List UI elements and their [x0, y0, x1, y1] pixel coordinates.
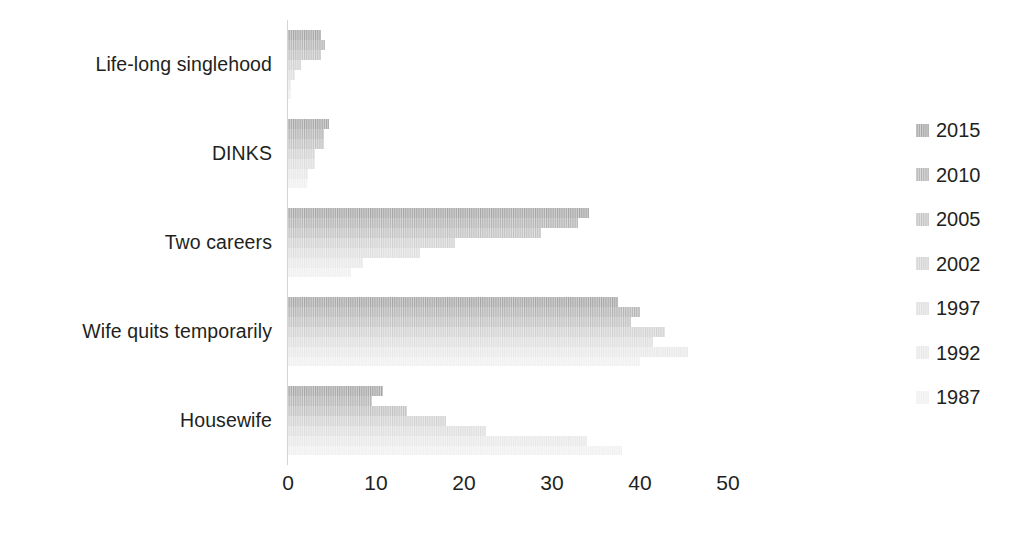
legend-item[interactable]: 1997	[916, 286, 1020, 331]
bar	[288, 129, 324, 139]
bar	[288, 218, 578, 228]
bar	[288, 386, 383, 396]
bar-chart-figure: Life-long singlehoodDINKSTwo careersWife…	[0, 0, 1020, 547]
x-tick-label: 20	[434, 472, 494, 493]
bar-group	[288, 119, 888, 189]
legend-label: 2015	[936, 120, 981, 140]
bar	[288, 119, 329, 129]
legend-item[interactable]: 2002	[916, 242, 1020, 287]
legend-swatch-icon	[916, 124, 929, 137]
x-tick-label: 30	[522, 472, 582, 493]
bar	[288, 60, 301, 70]
legend-item[interactable]: 1992	[916, 331, 1020, 376]
legend-item[interactable]: 2015	[916, 108, 1020, 153]
category-label: Housewife	[0, 411, 272, 431]
scan-artifact-caption	[28, 538, 988, 547]
legend-label: 1992	[936, 343, 981, 363]
bar	[288, 179, 307, 189]
bar	[288, 357, 640, 367]
category-axis-labels: Life-long singlehoodDINKSTwo careersWife…	[0, 20, 272, 465]
legend-label: 2002	[936, 254, 981, 274]
bar	[288, 307, 640, 317]
bar	[288, 149, 315, 159]
bar	[288, 30, 321, 40]
bar	[288, 347, 688, 357]
bar	[288, 90, 291, 100]
bar	[288, 396, 372, 406]
legend-label: 2010	[936, 165, 981, 185]
category-label: Life-long singlehood	[0, 55, 272, 75]
category-label: Wife quits temporarily	[0, 322, 272, 342]
bar	[288, 70, 295, 80]
bar	[288, 426, 486, 436]
bar	[288, 40, 325, 50]
bar-group	[288, 297, 888, 367]
bar	[288, 169, 308, 179]
category-label: Two careers	[0, 233, 272, 253]
bar-group	[288, 386, 888, 456]
x-tick-label: 40	[610, 472, 670, 493]
legend-label: 2005	[936, 209, 981, 229]
legend-item[interactable]: 2005	[916, 197, 1020, 242]
bar	[288, 317, 631, 327]
x-tick-label: 0	[258, 472, 318, 493]
bar	[288, 337, 653, 347]
chart-legend: 2015201020052002199719921987	[916, 108, 1020, 420]
bar-group	[288, 30, 888, 100]
bar	[288, 406, 407, 416]
legend-item[interactable]: 2010	[916, 153, 1020, 198]
x-tick-label: 50	[698, 472, 758, 493]
bar	[288, 297, 618, 307]
bar	[288, 268, 351, 278]
bar	[288, 228, 541, 238]
bar	[288, 436, 587, 446]
bar	[288, 139, 324, 149]
bar	[288, 50, 321, 60]
legend-item[interactable]: 1987	[916, 375, 1020, 420]
category-label: DINKS	[0, 144, 272, 164]
bar-group	[288, 208, 888, 278]
legend-label: 1987	[936, 387, 981, 407]
x-tick-label: 10	[346, 472, 406, 493]
bar	[288, 416, 446, 426]
legend-swatch-icon	[916, 213, 929, 226]
legend-swatch-icon	[916, 257, 929, 270]
legend-swatch-icon	[916, 302, 929, 315]
value-axis-tick-labels: 01020304050	[288, 472, 908, 512]
bar	[288, 327, 665, 337]
legend-swatch-icon	[916, 168, 929, 181]
plot-area	[288, 20, 888, 465]
bar	[288, 159, 315, 169]
legend-swatch-icon	[916, 346, 929, 359]
bar	[288, 446, 622, 456]
bar	[288, 80, 291, 90]
legend-swatch-icon	[916, 391, 929, 404]
bar	[288, 258, 363, 268]
legend-label: 1997	[936, 298, 981, 318]
bar	[288, 248, 420, 258]
bar	[288, 238, 455, 248]
bar	[288, 208, 589, 218]
